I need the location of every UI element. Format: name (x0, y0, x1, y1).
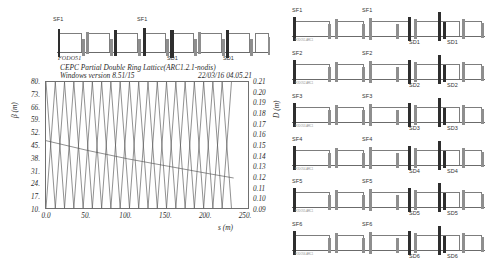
magnet-element (335, 148, 338, 168)
y-left-tick: 73. (18, 91, 40, 99)
x-axis-label: s (m) (218, 223, 233, 232)
magnet-element (462, 148, 465, 168)
magnet-element (462, 233, 465, 253)
magnet-element (414, 62, 417, 82)
element-label-sd: SD2 (447, 82, 458, 88)
y-right-tick: 0.13 (253, 163, 279, 171)
y-left-tick: 38. (18, 155, 40, 163)
magnet-element (362, 153, 365, 168)
beamline (292, 207, 485, 208)
magnet-element (369, 189, 372, 211)
lattice-cell (370, 192, 410, 207)
lattice-cell (143, 33, 166, 52)
y-right-tick: 0.11 (253, 185, 279, 193)
lattice-cell (294, 21, 330, 36)
plot-area (45, 81, 249, 209)
lattice-cell (59, 33, 82, 52)
magnet-element (408, 146, 411, 170)
y-left-tick: 80. (18, 78, 40, 86)
element-label-sf: SF4 (362, 136, 372, 142)
element-label-sf: SF3 (362, 93, 372, 99)
lattice-cell (336, 21, 364, 36)
y-right-tick: 0.15 (253, 142, 279, 150)
x-tick: 100. (111, 212, 141, 220)
magnet-element (369, 104, 372, 126)
lattice-cell (227, 33, 250, 52)
lattice-cell (370, 21, 410, 36)
lattice-cell (294, 150, 330, 165)
lattice-cell (464, 107, 482, 122)
left-panel: SF1 SF1 SD1 SD1 FODO51 CEPC Partial Doub… (0, 0, 285, 272)
y-left-tick: 31. (18, 168, 40, 176)
magnet-element (362, 110, 365, 125)
lattice-cell (370, 107, 410, 122)
element-label-sd: SD1 (167, 55, 178, 61)
magnet-element (110, 39, 113, 56)
magnet-element (481, 66, 484, 81)
plot-title-block: CEPC Partial Double Ring Lattice(ARC1.2.… (60, 64, 216, 81)
element-label-sd: SD5 (409, 210, 420, 216)
element-label-sf: SF2 (362, 50, 372, 56)
magnet-element (396, 195, 399, 210)
magnet-element (481, 152, 484, 167)
magnet-element (226, 30, 229, 58)
element-label-sf: SF6 (362, 221, 372, 227)
magnet-element (462, 62, 465, 82)
top-lattice-diagram: SF1 SF1 SD1 SD1 FODO51 (57, 12, 272, 62)
magnet-element (170, 30, 174, 58)
magnet-element (443, 193, 446, 210)
magnet-element (408, 17, 411, 41)
y-left-axis-label: β (m) (10, 102, 19, 118)
magnet-element (438, 141, 441, 170)
magnet-element (293, 146, 296, 170)
element-label-sd: SD6 (409, 253, 420, 259)
lattice-row: SF5SF5SD5SD5FODO55-ARC1 (292, 177, 487, 221)
element-label-sf: SF1 (137, 16, 147, 22)
magnet-element (408, 60, 411, 84)
lattice-cell (336, 107, 364, 122)
title-line-2-row: Windows version 8.51/15 22/03/16 04.05.2… (60, 72, 216, 80)
cell-label-fodo: FODO53-ARC1 (295, 125, 313, 128)
beamline (292, 79, 485, 80)
lattice-row: SF1SF1SD1SD1FODO51-ARC1 (292, 6, 487, 50)
x-tick: 50. (71, 212, 101, 220)
magnet-element (481, 109, 484, 124)
y-right-tick: 0.10 (253, 195, 279, 203)
element-label-sf: SF1 (53, 16, 63, 22)
element-label-sf: SF5 (292, 178, 302, 184)
lattice-cell (87, 33, 110, 52)
lattice-cell (336, 64, 364, 79)
element-label-sd: SD6 (447, 253, 458, 259)
magnet-element (293, 231, 296, 255)
magnet-element (481, 237, 484, 252)
lattice-cell (199, 33, 222, 52)
magnet-element (328, 238, 331, 253)
magnet-element (328, 153, 331, 168)
magnet-element (335, 190, 338, 210)
lattice-row: SF2SF2SD2SD2FODO52-ARC1 (292, 49, 487, 93)
beamline (292, 165, 485, 166)
magnet-element (335, 233, 338, 253)
magnet-element (408, 188, 411, 212)
magnet-element (414, 233, 417, 253)
element-label-sd: SD2 (409, 82, 420, 88)
lattice-row: SF6SF6SD6SD6FODO56-ARC1 (292, 220, 487, 264)
magnet-element (481, 23, 484, 38)
magnet-element (335, 19, 338, 39)
element-label-sf: SF3 (292, 93, 302, 99)
magnet-element (369, 147, 372, 169)
cell-label-fodo: FODO51-ARC1 (295, 39, 313, 42)
curve-beta_y (46, 82, 231, 208)
right-panel: SF1SF1SD1SD1FODO51-ARC1 SF2SF2SD2SD2FODO… (292, 0, 487, 272)
magnet-element (438, 226, 441, 255)
lattice-cell (294, 192, 330, 207)
magnet-element (328, 195, 331, 210)
element-label-sf: SF4 (292, 136, 302, 142)
magnet-element (462, 105, 465, 125)
magnet-element (438, 98, 441, 127)
magnet-element (396, 238, 399, 253)
magnet-element (438, 183, 441, 212)
magnet-element (408, 231, 411, 255)
element-label-sd: SD5 (447, 210, 458, 216)
lattice-cell (294, 235, 330, 250)
